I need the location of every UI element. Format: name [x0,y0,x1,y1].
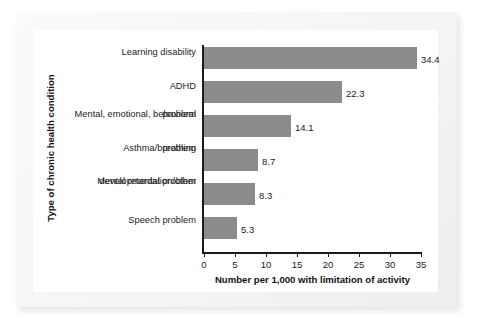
bar-value-3: 8.7 [262,156,275,167]
x-tick-30 [390,252,391,257]
bar-value-0: 34.4 [421,54,440,65]
x-tick-20 [328,252,329,257]
chart-screenshot: Learning disability ADHD Mental, emotion… [0,0,477,325]
category-label-line: Speech problem [66,215,196,227]
bar-speech-problem [204,217,237,239]
x-axis-title: Number per 1,000 with limitation of acti… [203,274,422,285]
x-tick-label-25: 25 [354,259,365,270]
bar-learning-disability [204,47,417,69]
category-label-line: ADHD [66,81,196,93]
x-tick-label-20: 20 [323,259,334,270]
category-label-line: problem [66,109,196,121]
x-tick-label-0: 0 [201,259,206,270]
bar-value-4: 8.3 [259,190,272,201]
x-tick-label-5: 5 [232,259,237,270]
bar-chart-plot: Learning disability ADHD Mental, emotion… [0,0,477,325]
bar-asthma [204,149,258,171]
category-label-line: developmental problem [66,176,196,188]
x-tick-15 [297,252,298,257]
x-tick-5 [235,252,236,257]
bar-mental-retardation [204,183,255,205]
x-tick-35 [421,252,422,257]
bar-value-5: 5.3 [241,224,254,235]
x-tick-25 [359,252,360,257]
x-tick-10 [266,252,267,257]
category-label-line: problem [66,143,196,155]
x-tick-label-15: 15 [292,259,303,270]
bar-value-2: 14.1 [295,122,314,133]
bar-mental-emotional [204,115,291,137]
category-label-line: Learning disability [66,47,196,59]
bar-adhd [204,81,342,103]
x-tick-label-10: 10 [261,259,272,270]
x-tick-label-30: 30 [385,259,396,270]
x-tick-0 [204,252,205,257]
bar-value-1: 22.3 [346,88,365,99]
x-tick-label-35: 35 [416,259,427,270]
y-axis-title: Type of chronic health condition [45,74,56,221]
